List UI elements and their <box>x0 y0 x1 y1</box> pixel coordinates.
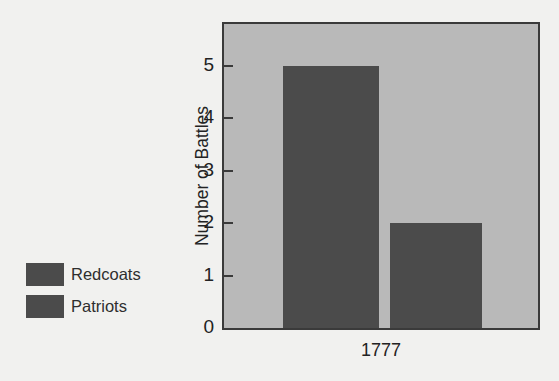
plot-area <box>222 22 540 330</box>
y-axis-tick-labels: 5 4 3 2 1 0 <box>188 22 222 330</box>
legend-label-redcoats: Redcoats <box>71 266 141 283</box>
x-tick-label: 1777 <box>361 340 401 361</box>
y-tick-label: 0 <box>203 317 214 336</box>
y-tick-mark <box>224 65 233 67</box>
x-axis-tick-labels: 1777 <box>222 334 540 366</box>
bar-chart-figure: Redcoats Patriots Number of Battles 5 4 … <box>0 0 559 381</box>
y-tick-mark <box>224 275 233 277</box>
legend-swatch-redcoats <box>26 263 64 286</box>
y-tick-label: 2 <box>203 212 214 231</box>
legend-item-patriots: Patriots <box>26 292 186 320</box>
bar-redcoats-1777 <box>283 66 379 328</box>
y-tick-mark <box>224 117 233 119</box>
bars-layer <box>224 24 538 328</box>
y-tick-mark <box>224 222 233 224</box>
legend-item-redcoats: Redcoats <box>26 260 186 288</box>
plot-region: Number of Battles 5 4 3 2 1 0 1777 <box>222 22 540 330</box>
y-tick-label: 3 <box>203 159 214 178</box>
legend-swatch-patriots <box>26 295 64 318</box>
legend-label-patriots: Patriots <box>71 298 127 315</box>
y-axis-ticks <box>224 24 225 330</box>
bar-patriots-1777 <box>390 223 482 328</box>
y-tick-mark <box>224 170 233 172</box>
y-tick-label: 1 <box>203 264 214 283</box>
y-tick-label: 5 <box>203 54 214 73</box>
chart-legend: Redcoats Patriots <box>26 260 186 324</box>
y-tick-label: 4 <box>203 107 214 126</box>
